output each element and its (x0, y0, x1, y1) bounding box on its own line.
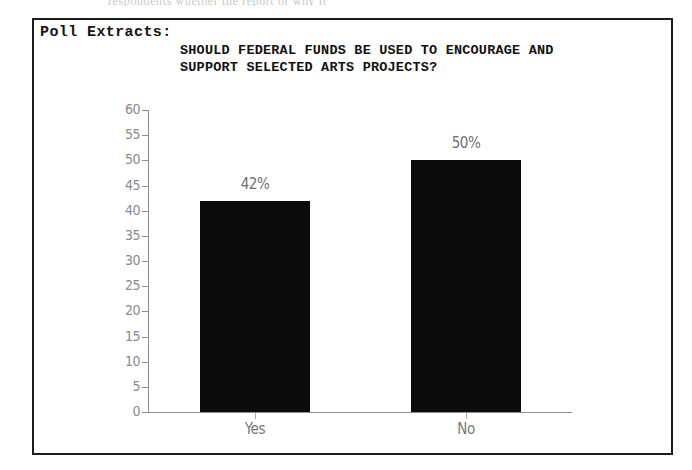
bar-value-label: 50% (411, 134, 521, 152)
x-tick-mark (255, 413, 256, 419)
x-axis-label: No (411, 420, 521, 438)
y-tick-label: 45 (98, 177, 140, 193)
y-tick-label: 25 (98, 277, 140, 293)
bar-no (411, 160, 521, 412)
y-tick-mark (142, 236, 149, 237)
y-tick-mark (142, 110, 149, 111)
x-axis-line (148, 412, 572, 413)
y-tick-mark (142, 387, 149, 388)
y-tick-mark (142, 160, 149, 161)
y-tick-mark (142, 211, 149, 212)
y-tick-label: 40 (98, 202, 140, 218)
y-tick-mark (142, 261, 149, 262)
x-axis-label: Yes (200, 420, 310, 438)
y-tick-mark (142, 412, 149, 413)
y-tick-mark (142, 311, 149, 312)
y-tick-label: 20 (98, 302, 140, 318)
y-tick-label: 30 (98, 252, 140, 268)
y-tick-mark (142, 362, 149, 363)
x-tick-mark (466, 413, 467, 419)
y-tick-mark (142, 186, 149, 187)
y-tick-mark (142, 135, 149, 136)
y-tick-label: 15 (98, 328, 140, 344)
y-tick-label: 60 (98, 101, 140, 117)
y-tick-label: 35 (98, 227, 140, 243)
y-tick-label: 10 (98, 353, 140, 369)
y-tick-label: 5 (98, 378, 140, 394)
y-tick-label: 55 (98, 126, 140, 142)
bar-chart-plot: 051015202530354045505560 42%50% YesNo (0, 0, 692, 470)
y-tick-label: 0 (98, 403, 140, 419)
bar-value-label: 42% (200, 175, 310, 193)
bar-yes (200, 201, 310, 412)
y-tick-label: 50 (98, 151, 140, 167)
y-tick-mark (142, 337, 149, 338)
y-tick-mark (142, 286, 149, 287)
